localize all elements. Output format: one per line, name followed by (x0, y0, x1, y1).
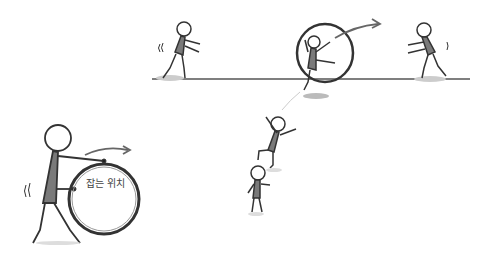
shadow (36, 241, 80, 245)
shadow (266, 168, 282, 172)
shadow (414, 76, 446, 82)
hoop-illustration (0, 0, 489, 257)
shadow (248, 212, 264, 216)
arrow-icon (85, 148, 128, 155)
shadow (303, 93, 329, 99)
stick-figure-jumping (258, 117, 296, 168)
stick-figure-thrower (159, 22, 201, 78)
shadow (156, 75, 184, 81)
stick-figure-catcher (408, 23, 448, 78)
grip-position-label: 잡는 위치 (86, 175, 125, 190)
stick-figure-standing (248, 166, 270, 212)
